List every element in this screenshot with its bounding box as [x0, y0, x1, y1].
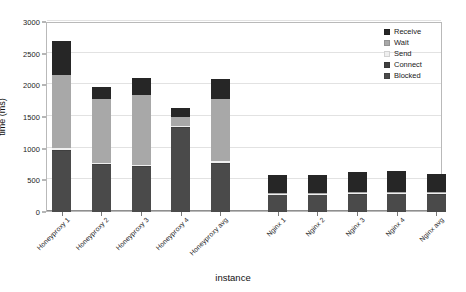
- y-axis-tick-label: 1500: [23, 113, 40, 122]
- bar-segment-connect[interactable]: [92, 164, 111, 165]
- bar-group[interactable]: [52, 22, 71, 212]
- y-axis-tick-label: 2500: [23, 49, 40, 58]
- bar-segment-wait[interactable]: [171, 117, 190, 126]
- legend-swatch-icon: [384, 51, 390, 57]
- bar-segment-send[interactable]: [211, 161, 230, 162]
- bar-segment-wait[interactable]: [211, 99, 230, 162]
- x-axis-tick-label: Nginx 3: [344, 216, 366, 238]
- legend-item-label: Blocked: [394, 72, 421, 80]
- chart-container: time (ms) 050010001500200025003000 Honey…: [0, 0, 466, 292]
- bar-segment-connect[interactable]: [211, 163, 230, 164]
- bar-segment-receive[interactable]: [132, 78, 151, 95]
- legend: ReceiveWaitSendConnectBlocked: [384, 27, 458, 82]
- bar-group[interactable]: [308, 22, 327, 212]
- legend-item[interactable]: Wait: [384, 38, 458, 48]
- bar-segment-wait[interactable]: [268, 193, 287, 194]
- legend-item-label: Connect: [394, 61, 422, 69]
- legend-swatch-icon: [384, 29, 390, 35]
- x-axis-title: instance: [0, 272, 466, 283]
- bar-group[interactable]: [348, 22, 367, 212]
- x-axis-tick-label: Nginx 4: [384, 216, 406, 238]
- x-axis-tick-label: Honeyproxy 3: [114, 216, 149, 251]
- legend-item-label: Wait: [394, 39, 409, 47]
- bar-segment-wait[interactable]: [132, 95, 151, 165]
- bar-segment-blocked[interactable]: [132, 167, 151, 212]
- bar-segment-send[interactable]: [268, 194, 287, 195]
- bar-segment-wait[interactable]: [387, 192, 406, 193]
- bar-segment-blocked[interactable]: [268, 195, 287, 212]
- bar-segment-connect[interactable]: [52, 150, 71, 151]
- bar-segment-send[interactable]: [132, 165, 151, 166]
- bar-segment-receive[interactable]: [308, 175, 327, 193]
- bar-segment-send[interactable]: [92, 163, 111, 164]
- y-axis-tick-label: 0: [36, 208, 40, 217]
- bar-segment-blocked[interactable]: [52, 151, 71, 212]
- bar-segment-wait[interactable]: [308, 193, 327, 194]
- bar-group[interactable]: [211, 22, 230, 212]
- bar-segment-receive[interactable]: [348, 172, 367, 192]
- bar-group[interactable]: [268, 22, 287, 212]
- bar-group[interactable]: [92, 22, 111, 212]
- bar-segment-blocked[interactable]: [308, 195, 327, 212]
- bar-segment-receive[interactable]: [211, 79, 230, 99]
- bar-segment-wait[interactable]: [92, 99, 111, 163]
- x-axis-tick-label: Nginx 2: [305, 216, 327, 238]
- bar-segment-send[interactable]: [348, 193, 367, 194]
- x-axis-labels: Honeyproxy 1Honeyproxy 2Honeyproxy 3Hone…: [46, 216, 442, 274]
- bar-segment-blocked[interactable]: [171, 128, 190, 212]
- bar-group[interactable]: [132, 22, 151, 212]
- bar-segment-wait[interactable]: [348, 192, 367, 193]
- y-axis-tick-label: 500: [27, 176, 40, 185]
- legend-swatch-icon: [384, 40, 390, 46]
- bar-segment-send[interactable]: [308, 194, 327, 195]
- bar-segment-receive[interactable]: [52, 41, 71, 75]
- bar-segment-receive[interactable]: [427, 174, 446, 192]
- x-axis-tick-label: Nginx avg: [418, 216, 445, 243]
- legend-swatch-icon: [384, 62, 390, 68]
- bar-segment-send[interactable]: [171, 126, 190, 127]
- bar-segment-blocked[interactable]: [348, 195, 367, 212]
- legend-item[interactable]: Connect: [384, 60, 458, 70]
- bars-layer: [46, 22, 442, 212]
- gridline: [47, 20, 441, 21]
- legend-swatch-icon: [384, 73, 390, 79]
- bar-segment-wait[interactable]: [427, 192, 446, 193]
- legend-item[interactable]: Blocked: [384, 71, 458, 81]
- bar-segment-blocked[interactable]: [427, 195, 446, 212]
- x-axis-tick-label: Nginx 1: [265, 216, 287, 238]
- y-axis-tick-label: 1000: [23, 144, 40, 153]
- bar-segment-connect[interactable]: [132, 166, 151, 167]
- legend-item-label: Receive: [394, 28, 421, 36]
- bar-group[interactable]: [171, 22, 190, 212]
- bar-segment-blocked[interactable]: [387, 194, 406, 212]
- legend-item[interactable]: Receive: [384, 27, 458, 37]
- bar-segment-send[interactable]: [427, 193, 446, 194]
- bar-segment-blocked[interactable]: [211, 164, 230, 212]
- bar-segment-send[interactable]: [387, 193, 406, 194]
- x-axis-tick-label: Honeyproxy 4: [154, 216, 189, 251]
- bar-segment-blocked[interactable]: [92, 165, 111, 212]
- y-axis: 050010001500200025003000: [0, 22, 46, 212]
- legend-item[interactable]: Send: [384, 49, 458, 59]
- bar-segment-receive[interactable]: [171, 108, 190, 118]
- bar-segment-receive[interactable]: [387, 171, 406, 191]
- bar-segment-send[interactable]: [52, 148, 71, 150]
- x-axis-tick-label: Honeyproxy avg: [188, 216, 229, 257]
- bar-segment-receive[interactable]: [268, 175, 287, 193]
- y-axis-tick-label: 3000: [23, 18, 40, 27]
- x-axis-tick-label: Honeyproxy 2: [75, 216, 110, 251]
- bar-segment-wait[interactable]: [52, 75, 71, 149]
- x-axis-tick-label: Honeyproxy 1: [35, 216, 70, 251]
- legend-item-label: Send: [394, 50, 412, 58]
- bar-segment-receive[interactable]: [92, 87, 111, 99]
- bar-segment-connect[interactable]: [171, 127, 190, 128]
- y-axis-tick-label: 2000: [23, 81, 40, 90]
